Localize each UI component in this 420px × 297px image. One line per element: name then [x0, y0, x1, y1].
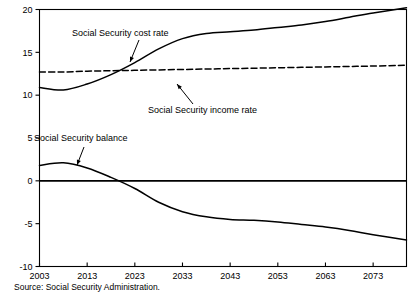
x-tick-label: 2023 [125, 271, 145, 281]
line-chart: -10-505101520 20032013202320332043205320… [0, 0, 420, 297]
annotation-social-security-income-rate-label: Social Security income rate [148, 105, 257, 115]
y-tick-label: 10 [22, 90, 32, 100]
y-tick-label: 0 [27, 176, 32, 186]
y-tick-label: 20 [22, 5, 32, 15]
x-tick-label: 2073 [363, 271, 383, 281]
annotation-social-security-cost-rate-label: Social Security cost rate [72, 28, 169, 38]
x-tick-label: 2013 [77, 271, 97, 281]
x-tick-label: 2043 [220, 271, 240, 281]
y-tick-label: 5 [27, 133, 32, 143]
social-security-rates-figure: -10-505101520 20032013202320332043205320… [0, 0, 420, 297]
chart-background [0, 0, 420, 297]
x-tick-label: 2033 [172, 271, 192, 281]
annotation-social-security-balance-label: Social Security balance [34, 133, 128, 143]
y-tick-label: 15 [22, 48, 32, 58]
y-tick-label: -5 [24, 219, 32, 229]
x-tick-label: 2063 [315, 271, 335, 281]
x-tick-label: 2003 [29, 271, 49, 281]
source-note: Source: Social Security Administration. [14, 282, 160, 292]
x-tick-label: 2053 [268, 271, 288, 281]
